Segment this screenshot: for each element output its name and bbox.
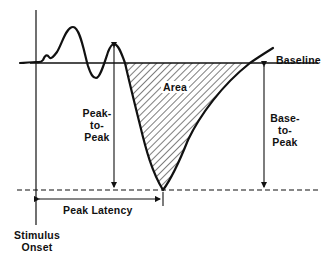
baseline-label: Baseline — [276, 54, 321, 66]
stimulus-onset-line-1: Stimulus — [14, 229, 60, 241]
base-to-peak-line-1: Base- — [270, 112, 300, 124]
area-label: Area — [161, 81, 189, 93]
peak-latency-label: Peak Latency — [63, 204, 133, 216]
peak-to-peak-line-3: Peak — [84, 131, 109, 143]
peak-to-peak-line-1: Peak- — [82, 107, 111, 119]
peak-to-peak-line-2: to- — [90, 119, 104, 131]
base-to-peak-label: Base- to- Peak — [268, 112, 302, 148]
peak-to-peak-label: Peak- to- Peak — [82, 107, 112, 143]
stimulus-onset-label: Stimulus Onset — [8, 229, 66, 253]
stimulus-onset-line-2: Onset — [22, 241, 53, 253]
base-to-peak-line-2: to- — [278, 124, 292, 136]
base-to-peak-line-3: Peak — [272, 136, 297, 148]
